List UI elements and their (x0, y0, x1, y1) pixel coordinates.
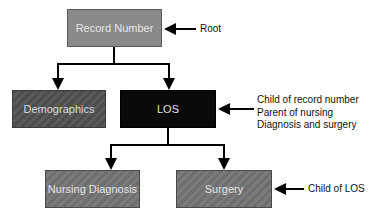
node-nursing-diagnosis: Nursing Diagnosis (45, 170, 140, 208)
node-label: LOS (157, 103, 179, 115)
node-label: Demographics (24, 103, 95, 115)
annotation-los-line3: Diagnosis and surgery (257, 119, 359, 132)
annotation-los-line1: Child of record number (257, 94, 359, 107)
node-demographics: Demographics (12, 90, 106, 128)
annotation-los-line2: Parent of nursing (257, 107, 359, 120)
node-label: Nursing Diagnosis (48, 183, 137, 195)
annotation-los: Child of record number Parent of nursing… (257, 94, 359, 132)
annotation-root: Root (200, 23, 221, 36)
node-surgery: Surgery (176, 170, 272, 208)
node-los: LOS (120, 90, 216, 128)
node-label: Record Number (76, 22, 154, 34)
node-record-number: Record Number (67, 9, 162, 47)
annotation-surgery: Child of LOS (308, 183, 365, 196)
node-label: Surgery (205, 183, 244, 195)
